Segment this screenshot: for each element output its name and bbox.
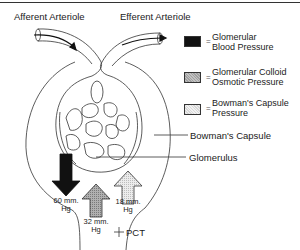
flow-arrows <box>34 35 166 50</box>
legend-equals: = <box>206 37 211 46</box>
bowmans-capsule-label: Bowman's Capsule <box>190 130 271 141</box>
afferent-arteriole-label: Afferent Arteriole <box>14 11 85 22</box>
legend-equals: = <box>206 73 211 82</box>
blood-pressure-value: 60 mm.Hg <box>49 197 83 213</box>
legend-swatch-blood <box>184 36 201 47</box>
legend-equals: = <box>206 104 211 113</box>
legend-label-capsule: Bowman's CapsulePressure <box>212 98 289 118</box>
glomerulus-label: Glomerulus <box>189 152 238 163</box>
colloid-pressure-arrow <box>82 184 110 217</box>
pct-label: PCT <box>126 227 145 238</box>
efferent-arteriole-label: Efferent Arteriole <box>120 11 191 22</box>
legend-swatch-colloid <box>184 72 201 83</box>
capsule-pressure-value: 18 mm.Hg <box>111 198 145 214</box>
legend-swatch-capsule <box>184 104 201 115</box>
colloid-pressure-value: 32 mm.Hg <box>79 218 113 234</box>
legend-label-blood: GlomerularBlood Pressure <box>212 32 274 52</box>
blood-pressure-arrow <box>52 154 80 196</box>
legend-label-colloid: Glomerular ColloidOsmotic Pressure <box>212 67 287 87</box>
